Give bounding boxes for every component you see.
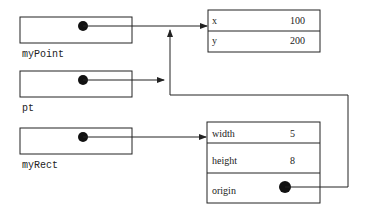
field-value: 8 bbox=[290, 155, 295, 166]
variable-box bbox=[20, 128, 132, 154]
arrow-origin-to-point bbox=[170, 30, 348, 187]
field-value: 200 bbox=[290, 35, 305, 46]
variable-label: myRect bbox=[22, 160, 58, 171]
rect-object: width 5 height 8 origin bbox=[207, 122, 320, 203]
field-name: width bbox=[212, 128, 235, 139]
field-name: x bbox=[212, 15, 217, 26]
variable-box bbox=[20, 71, 132, 97]
field-name: origin bbox=[212, 185, 236, 196]
variable-pt: pt bbox=[20, 71, 132, 114]
field-name: y bbox=[212, 35, 217, 46]
variable-box bbox=[20, 17, 132, 43]
field-name: height bbox=[212, 155, 237, 166]
field-value: 5 bbox=[290, 128, 295, 139]
field-value: 100 bbox=[290, 15, 305, 26]
variable-label: myPoint bbox=[22, 49, 64, 60]
variable-label: pt bbox=[22, 103, 34, 114]
variable-myrect: myRect bbox=[20, 128, 132, 171]
variable-mypoint: myPoint bbox=[20, 17, 132, 60]
point-object: x 100 y 200 bbox=[208, 10, 320, 52]
reference-diagram: myPoint pt myRect x 100 y 200 width 5 he… bbox=[0, 0, 365, 212]
